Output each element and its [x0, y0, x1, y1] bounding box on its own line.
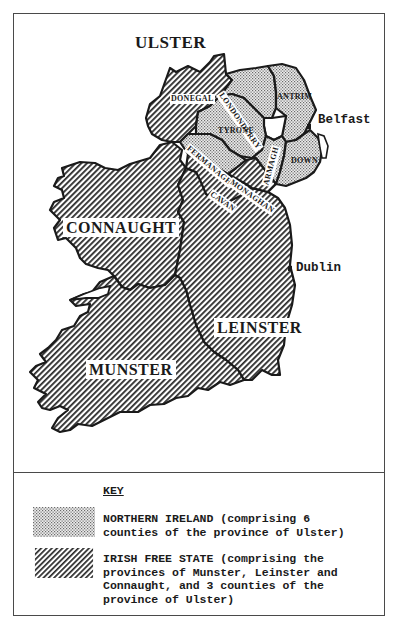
key-text-irish-free-state: IRISH FREE STATE (comprising the provinc…: [103, 552, 338, 606]
label-ulster: ULSTER: [135, 33, 206, 53]
dublin-marker: [288, 266, 292, 271]
label-down: DOWN: [290, 156, 319, 166]
swatch-dotted-northern-ireland: [33, 507, 95, 537]
label-dublin: Dublin: [296, 261, 341, 275]
label-munster: MUNSTER: [86, 360, 176, 379]
label-connaught: CONNAUGHT: [63, 218, 179, 237]
key-text-northern-ireland: NORTHERN IRELAND (comprising 6 counties …: [103, 512, 345, 539]
label-antrim: ANTRIM: [276, 92, 313, 102]
label-belfast: Belfast: [318, 113, 371, 127]
swatch-hatched-irish-free-state: [33, 548, 95, 578]
key-title: KEY: [103, 484, 124, 497]
label-tyrone: TYRONE: [217, 126, 255, 136]
belfast-marker: [307, 124, 311, 129]
province-connaught: [50, 142, 186, 290]
label-leinster: LEINSTER: [214, 318, 305, 337]
label-donegal: DONEGAL: [170, 94, 215, 104]
